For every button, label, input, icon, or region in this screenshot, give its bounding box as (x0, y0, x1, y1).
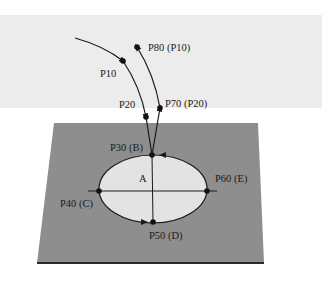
label-p60: P60 (E) (215, 173, 248, 185)
point-p20 (143, 114, 149, 120)
background-band (0, 15, 322, 108)
point-p70 (157, 105, 163, 111)
path-diagram: P80 (P10) P10 P20 P70 (P20) P30 (B) A P6… (0, 0, 322, 286)
label-p80: P80 (P10) (148, 42, 191, 54)
label-region-a: A (139, 173, 147, 184)
point-p10 (120, 58, 126, 64)
point-p60 (204, 188, 210, 194)
label-p50: P50 (D) (149, 230, 183, 242)
label-p10: P10 (100, 68, 116, 79)
label-p20: P20 (119, 99, 135, 110)
label-p40: P40 (C) (60, 198, 93, 210)
label-p70: P70 (P20) (165, 98, 208, 110)
point-p40 (96, 188, 102, 194)
point-p80 (134, 44, 140, 50)
point-p50 (150, 219, 156, 225)
label-p30: P30 (B) (110, 142, 143, 154)
point-p30 (149, 152, 155, 158)
